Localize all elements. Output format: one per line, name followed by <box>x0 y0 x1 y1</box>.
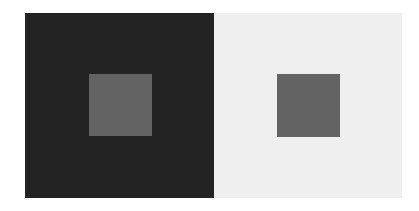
gray-center-square-left <box>89 74 152 136</box>
gray-center-square-right <box>277 74 340 137</box>
